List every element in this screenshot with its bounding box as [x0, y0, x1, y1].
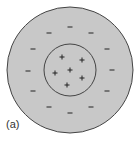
charge-distribution-diagram: [0, 0, 139, 143]
figure-label: (a): [6, 118, 19, 130]
